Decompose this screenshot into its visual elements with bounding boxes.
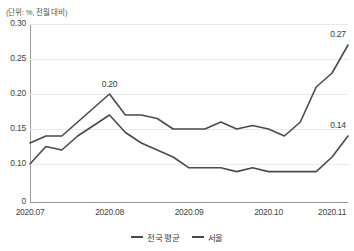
series-lines <box>0 0 354 251</box>
legend-label: 서울 <box>208 231 223 243</box>
legend-item-national-average: 전국 평균 <box>131 231 180 243</box>
data-point-label: 0.27 <box>330 29 346 39</box>
data-point-label: 0.14 <box>330 120 346 130</box>
line-chart: (단위: %, 전월 대비) 0.300.250.200.150.100 202… <box>0 0 354 251</box>
chart-legend: 전국 평균 서울 <box>0 231 354 243</box>
legend-line-icon <box>192 236 204 238</box>
legend-line-icon <box>131 236 143 238</box>
series-line-seoul <box>30 115 348 172</box>
legend-label: 전국 평균 <box>147 231 180 243</box>
series-line-national-average <box>30 45 348 143</box>
data-point-label: 0.20 <box>102 79 118 89</box>
legend-item-seoul: 서울 <box>192 231 223 243</box>
